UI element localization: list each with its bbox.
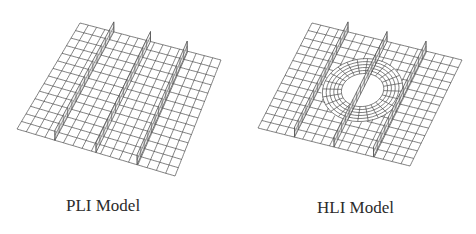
- hli-mesh-diagram: [238, 0, 476, 190]
- hli-model-caption: HLI Model: [317, 198, 394, 218]
- stiffener-1: [295, 22, 349, 137]
- pli-mesh-diagram: [0, 0, 238, 190]
- stiffener-1: [55, 22, 114, 140]
- stiffener-3: [374, 41, 427, 157]
- pli-model-caption: PLI Model: [66, 196, 140, 216]
